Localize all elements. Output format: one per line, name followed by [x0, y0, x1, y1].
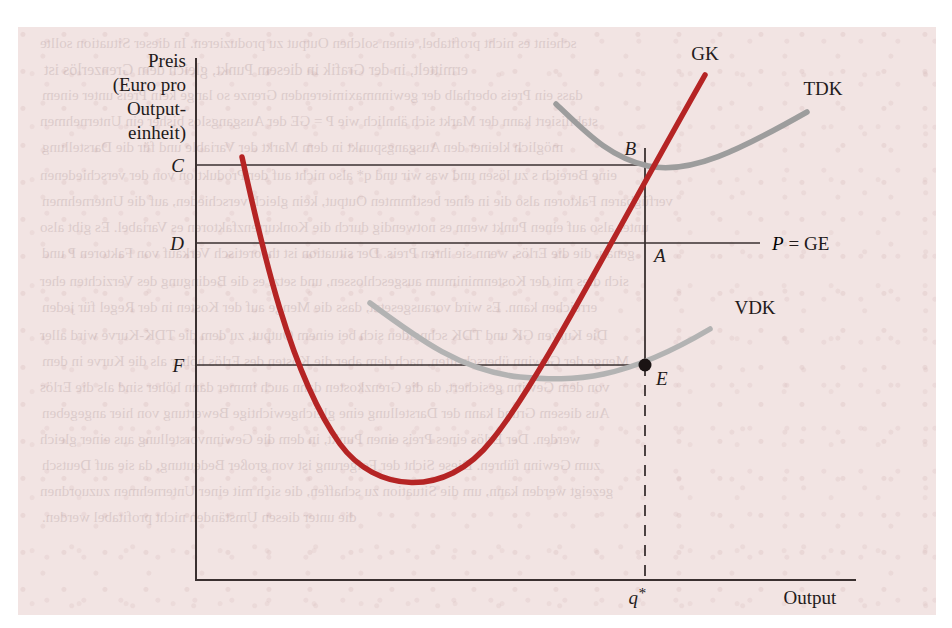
- q-star-base: q: [629, 587, 639, 608]
- point-label-E: E: [655, 368, 668, 389]
- curve-labels: GK TDK VDK P= GE: [691, 43, 843, 318]
- y-axis-title-line-3: Output-: [127, 98, 186, 119]
- q-star-superscript: *: [638, 585, 646, 601]
- cost-curves-chart: Preis (Euro pro Output- einheit) C D F q…: [0, 0, 952, 628]
- point-label-B: B: [624, 138, 636, 159]
- y-axis-tick-labels: C D F: [169, 155, 184, 376]
- chart-points: [639, 359, 652, 372]
- curve-label-gk: GK: [691, 43, 719, 64]
- x-axis-labels: q* Output: [629, 585, 838, 608]
- tick-label-F: F: [171, 355, 184, 376]
- price-line-label-rest: = GE: [789, 233, 830, 254]
- y-axis-title-line-4: einheit): [128, 122, 186, 144]
- point-label-A: A: [652, 245, 666, 266]
- price-line-label-p: P: [771, 233, 784, 254]
- curve-label-price-line: P= GE: [771, 233, 829, 254]
- curve-gk: [242, 75, 705, 483]
- x-axis-title: Output: [784, 587, 838, 608]
- curve-label-tdk: TDK: [803, 78, 842, 99]
- point-E-marker: [639, 359, 652, 372]
- price-level-lines: [196, 165, 760, 365]
- tick-label-q-star: q*: [629, 585, 647, 608]
- y-axis-title-line-2: (Euro pro: [113, 74, 186, 96]
- screenshot-page: scheint es nicht profitabel, einen solch…: [0, 0, 952, 628]
- y-axis-title-line-1: Preis: [148, 50, 186, 71]
- tick-label-C: C: [171, 155, 184, 176]
- curve-label-vdk: VDK: [734, 297, 775, 318]
- tick-label-D: D: [169, 233, 184, 254]
- y-axis-title: Preis (Euro pro Output- einheit): [113, 50, 186, 144]
